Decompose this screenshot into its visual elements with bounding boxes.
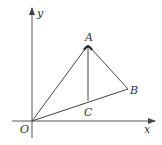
segment-AB: [88, 45, 128, 89]
label-O: O: [20, 123, 29, 136]
label-C: C: [84, 106, 93, 119]
segment-OA: [32, 45, 88, 121]
label-B: B: [129, 84, 138, 97]
segment-OB: [32, 89, 128, 121]
label-A: A: [84, 31, 93, 44]
label-x: x: [144, 123, 151, 136]
label-y: y: [36, 7, 44, 20]
coordinate-diagram: y x O A B C: [0, 0, 162, 145]
